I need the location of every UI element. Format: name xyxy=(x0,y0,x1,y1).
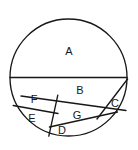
region-b-shape xyxy=(10,78,127,98)
region-label-d: D xyxy=(58,124,66,136)
region-label-b: B xyxy=(76,84,83,96)
geometry-figure: A B C D E F G xyxy=(0,0,138,150)
circle-regions-svg: A B C D E F G xyxy=(0,0,138,150)
region-label-g: G xyxy=(73,109,82,121)
region-label-c: C xyxy=(111,97,119,109)
region-label-f: F xyxy=(31,93,38,105)
region-label-e: E xyxy=(28,112,35,124)
region-label-a: A xyxy=(65,45,73,57)
